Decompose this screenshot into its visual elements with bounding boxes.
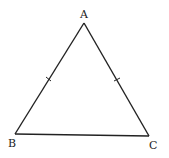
vertex-label-a: A [79, 8, 89, 21]
triangle-diagram: A B C [0, 0, 169, 158]
side-bc [15, 134, 149, 136]
side-ab [15, 23, 84, 134]
vertex-label-b: B [8, 137, 16, 150]
vertex-label-c: C [149, 139, 157, 152]
